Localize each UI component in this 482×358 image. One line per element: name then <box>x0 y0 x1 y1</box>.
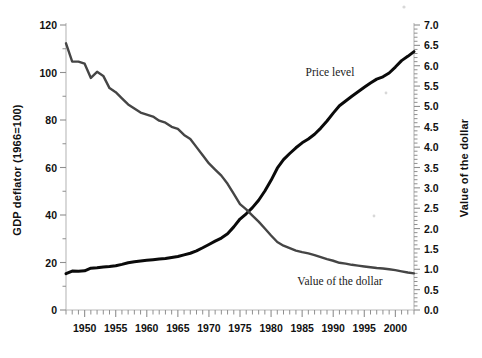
right-tick-label: 6.0 <box>424 60 439 72</box>
right-tick-label: 1.5 <box>424 243 439 255</box>
left-tick-label: 0 <box>51 304 57 316</box>
x-tick-label: 1950 <box>73 322 97 334</box>
value-of-dollar-annotation: Value of the dollar <box>297 275 382 287</box>
x-tick-label: 1955 <box>104 322 128 334</box>
right-tick-label: 2.5 <box>424 202 439 214</box>
right-tick-label: 3.0 <box>424 182 439 194</box>
x-tick-label: 1985 <box>290 322 314 334</box>
right-tick-label: 4.5 <box>424 121 439 133</box>
x-tick-label: 1980 <box>259 322 283 334</box>
left-tick-label: 100 <box>39 67 57 79</box>
right-tick-label: 5.0 <box>424 100 439 112</box>
left-tick-label: 80 <box>45 114 57 126</box>
gdp-deflator-dollar-value-line-chart: 020406080100120 0.00.51.01.52.02.53.03.5… <box>0 0 482 358</box>
left-axis-title: GDP deflator (1966=100) <box>11 104 23 235</box>
right-tick-label: 0.5 <box>424 284 439 296</box>
x-tick-label: 1970 <box>197 322 221 334</box>
x-tick-label: 1960 <box>135 322 159 334</box>
x-tick-label: 1995 <box>353 322 377 334</box>
left-tick-label: 60 <box>45 162 57 174</box>
chart-container: 020406080100120 0.00.51.01.52.02.53.03.5… <box>0 0 482 358</box>
speck-mark <box>385 92 388 95</box>
right-tick-label: 2.0 <box>424 223 439 235</box>
right-tick-label: 7.0 <box>424 19 439 31</box>
right-tick-label: 6.5 <box>424 39 439 51</box>
x-tick-label: 1965 <box>166 322 190 334</box>
right-tick-label: 3.5 <box>424 162 439 174</box>
speck-mark <box>373 215 376 218</box>
x-tick-label: 1990 <box>322 322 346 334</box>
right-tick-label: 0.0 <box>424 304 439 316</box>
left-tick-label: 120 <box>39 19 57 31</box>
right-tick-label: 4.0 <box>424 141 439 153</box>
left-tick-label: 40 <box>45 209 57 221</box>
left-tick-label: 20 <box>45 257 57 269</box>
speck-mark <box>402 5 405 8</box>
price-level-annotation: Price level <box>306 66 355 78</box>
x-tick-label: 2000 <box>384 322 408 334</box>
x-tick-label: 1975 <box>228 322 252 334</box>
right-axis-title: Value of the dollar <box>458 118 470 217</box>
right-tick-label: 1.0 <box>424 263 439 275</box>
right-tick-label: 5.5 <box>424 80 439 92</box>
